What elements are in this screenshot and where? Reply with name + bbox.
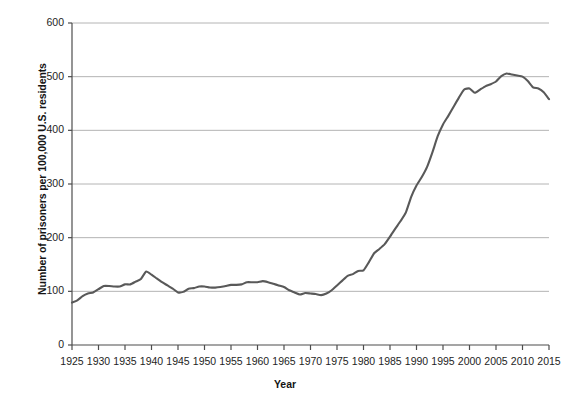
y-tick-label: 0 [24, 338, 64, 350]
x-tick-label: 2015 [529, 355, 569, 367]
y-tick-label: 500 [24, 70, 64, 82]
y-tick-label: 200 [24, 231, 64, 243]
y-tick-label: 300 [24, 177, 64, 189]
x-axis-ticks [72, 345, 549, 350]
data-line-imprisonment-rate [72, 73, 549, 302]
plot-area [0, 0, 570, 408]
y-tick-label: 600 [24, 16, 64, 28]
gridlines [72, 23, 549, 291]
line-chart: Number of prisoners per 100,000 U.S. res… [0, 0, 570, 408]
y-tick-label: 100 [24, 284, 64, 296]
y-tick-label: 400 [24, 123, 64, 135]
